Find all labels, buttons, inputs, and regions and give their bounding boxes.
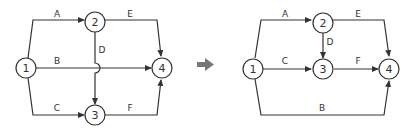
right-diagram: A C D E F B 1 2 3 4 bbox=[243, 9, 399, 115]
node-4: 4 bbox=[379, 59, 399, 79]
edge-label-f: F bbox=[355, 56, 360, 66]
svg-text:2: 2 bbox=[92, 16, 99, 29]
network-diagram-figure: A B C D E F 1 2 3 4 A C D E F B 1 2 3 4 bbox=[0, 0, 408, 133]
edge-label-f: F bbox=[127, 103, 132, 113]
svg-text:4: 4 bbox=[386, 63, 393, 76]
edge-e bbox=[333, 20, 389, 56]
node-3: 3 bbox=[85, 105, 105, 125]
right-arrow-icon bbox=[197, 58, 214, 71]
edge-label-b: B bbox=[319, 103, 325, 113]
node-1: 1 bbox=[16, 58, 36, 78]
svg-text:3: 3 bbox=[320, 63, 327, 76]
edge-label-d: D bbox=[99, 45, 106, 55]
edge-label-e: E bbox=[127, 9, 133, 19]
edge-f bbox=[105, 80, 161, 115]
svg-text:1: 1 bbox=[23, 62, 30, 75]
edge-label-e: E bbox=[355, 9, 361, 19]
edge-label-a: A bbox=[54, 9, 61, 19]
svg-text:3: 3 bbox=[92, 109, 99, 122]
edge-label-c: C bbox=[282, 56, 288, 66]
left-diagram: A B C D E F 1 2 3 4 bbox=[16, 9, 172, 125]
node-3: 3 bbox=[313, 59, 333, 79]
edge-label-b: B bbox=[54, 56, 60, 66]
svg-text:1: 1 bbox=[250, 63, 257, 76]
edge-label-c: C bbox=[54, 103, 60, 113]
edge-e bbox=[105, 20, 161, 56]
node-4: 4 bbox=[152, 58, 172, 78]
edge-label-d: D bbox=[327, 37, 334, 47]
node-2: 2 bbox=[85, 12, 105, 32]
node-2: 2 bbox=[313, 13, 333, 33]
node-1: 1 bbox=[243, 59, 263, 79]
svg-text:2: 2 bbox=[320, 17, 327, 30]
edge-a bbox=[255, 20, 311, 58]
edge-label-a: A bbox=[282, 9, 289, 19]
svg-text:4: 4 bbox=[159, 62, 166, 75]
edge-a bbox=[28, 20, 84, 58]
